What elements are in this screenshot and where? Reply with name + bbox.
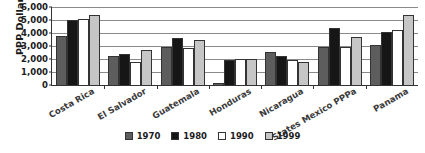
bar-group bbox=[261, 7, 313, 85]
bar bbox=[370, 45, 381, 85]
bar bbox=[318, 47, 329, 85]
legend-label: 1999 bbox=[277, 131, 301, 141]
bar bbox=[235, 59, 246, 85]
legend-swatch bbox=[171, 132, 179, 140]
bar bbox=[67, 20, 78, 85]
bar bbox=[224, 60, 235, 85]
legend-item[interactable]: 1980 bbox=[171, 131, 207, 141]
x-axis-label: El Salvador bbox=[96, 86, 148, 122]
y-tick-label: 2,000 bbox=[21, 54, 48, 64]
bar bbox=[340, 47, 351, 85]
bar bbox=[183, 48, 194, 85]
bar bbox=[265, 52, 276, 85]
y-tick-label: 3,000 bbox=[21, 41, 48, 51]
legend-swatch bbox=[125, 132, 133, 140]
x-axis-label: Guatemala bbox=[150, 86, 200, 121]
bar-group bbox=[52, 7, 104, 85]
legend-item[interactable]: 1970 bbox=[125, 131, 161, 141]
legend-item[interactable]: 1990 bbox=[218, 131, 254, 141]
x-axis-labels: Costa RicaEl SalvadorGuatemalaHondurasNi… bbox=[51, 86, 417, 136]
bar-group bbox=[313, 7, 365, 85]
legend-swatch bbox=[218, 132, 226, 140]
y-tick-label: 4,000 bbox=[21, 28, 48, 38]
bar bbox=[246, 59, 257, 85]
bar bbox=[108, 56, 119, 85]
bar bbox=[161, 47, 172, 85]
bar-chart: PPP Dollars 01,0002,0003,0004,0005,0006,… bbox=[0, 0, 425, 153]
bar bbox=[403, 15, 414, 85]
x-axis-label: Panama bbox=[371, 86, 409, 114]
bar bbox=[56, 36, 67, 85]
bar-group bbox=[209, 7, 261, 85]
bar bbox=[298, 62, 309, 85]
x-axis-label: Nicaragua bbox=[258, 86, 306, 119]
x-axis-label: Costa Rica bbox=[47, 86, 96, 120]
bar bbox=[351, 37, 362, 85]
bar bbox=[119, 54, 130, 85]
chart-legend: 1970198019901999 bbox=[0, 131, 425, 141]
bar bbox=[78, 19, 89, 85]
bar bbox=[276, 56, 287, 85]
bar bbox=[130, 62, 141, 85]
y-tick-label: 1,000 bbox=[21, 67, 48, 77]
y-tick-label: 6,000 bbox=[21, 2, 48, 12]
bar bbox=[141, 50, 152, 85]
bar-group bbox=[104, 7, 156, 85]
legend-swatch bbox=[265, 132, 273, 140]
bar bbox=[329, 28, 340, 85]
bar bbox=[172, 38, 183, 85]
y-tick-label: 0 bbox=[42, 80, 48, 90]
bar-group bbox=[157, 7, 209, 85]
bar bbox=[381, 32, 392, 85]
legend-label: 1990 bbox=[230, 131, 254, 141]
legend-item[interactable]: 1999 bbox=[265, 131, 301, 141]
y-tick-label: 5,000 bbox=[21, 15, 48, 25]
x-axis-label: Honduras bbox=[208, 86, 253, 118]
plot-area: 01,0002,0003,0004,0005,0006,000 bbox=[51, 7, 418, 86]
bar-groups bbox=[52, 7, 418, 85]
legend-label: 1980 bbox=[183, 131, 207, 141]
bar-group bbox=[366, 7, 418, 85]
bar bbox=[392, 30, 403, 85]
legend-label: 1970 bbox=[137, 131, 161, 141]
bar bbox=[89, 15, 100, 85]
bar bbox=[213, 83, 224, 85]
bar bbox=[287, 60, 298, 85]
bar bbox=[194, 40, 205, 85]
